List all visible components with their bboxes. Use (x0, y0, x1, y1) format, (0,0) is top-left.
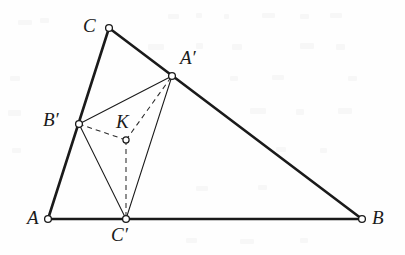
figure-canvas (0, 0, 405, 255)
label-b-text: B (372, 207, 384, 228)
cevians-from-k (79, 76, 172, 219)
label-a-prime-text: A (180, 47, 192, 68)
cevian-k-to-a1 (126, 76, 172, 140)
label-a-text: A (27, 207, 39, 228)
vertex-marker-a (45, 216, 52, 223)
vertex-marker-a-prime (169, 73, 176, 80)
label-c-prime-text: C (111, 224, 124, 245)
label-b-prime: B′ (43, 110, 59, 129)
vertex-marker-b-prime (76, 121, 83, 128)
label-c-text: C (83, 15, 96, 36)
prime-mark-c: ′ (124, 224, 128, 245)
label-b-prime-text: B (43, 109, 55, 130)
label-a-prime: A′ (180, 48, 196, 67)
vertex-marker-c (106, 25, 113, 32)
edge-b1c1 (79, 124, 126, 219)
label-k: K (116, 112, 129, 131)
prime-mark-a: ′ (192, 47, 196, 68)
vertex-marker-b (359, 216, 366, 223)
vertex-marker-c-prime (123, 216, 130, 223)
geometry-figure: A B C A′ B′ C′ K (0, 0, 405, 255)
label-a: A (27, 208, 39, 227)
label-k-text: K (116, 111, 129, 132)
point-marker-k (123, 137, 129, 143)
outer-triangle-abc (48, 28, 362, 219)
edge-c1a1 (126, 76, 172, 219)
label-c-prime: C′ (111, 225, 128, 244)
prime-mark-b: ′ (55, 109, 59, 130)
edge-bc (109, 28, 362, 219)
label-b: B (372, 208, 384, 227)
label-c: C (83, 16, 96, 35)
vertex-markers (45, 25, 366, 223)
